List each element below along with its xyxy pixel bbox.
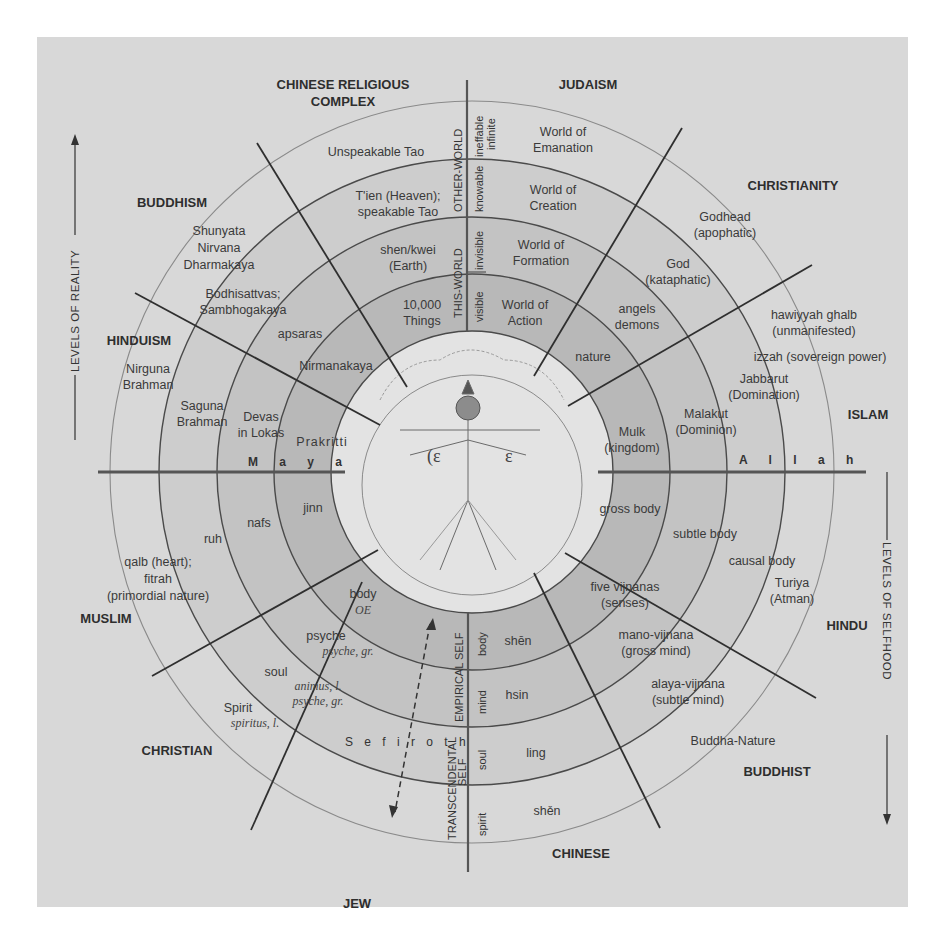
svg-text:(Dominion): (Dominion)	[675, 423, 736, 437]
svg-text:(apophatic): (apophatic)	[694, 226, 757, 240]
heading-buddhism: BUDDHISM	[137, 195, 207, 210]
svg-text:demons: demons	[615, 318, 659, 332]
heading-islam: ISLAM	[848, 407, 888, 422]
heading-christian: CHRISTIAN	[142, 743, 213, 758]
integral-levels-diagram: (ɛ ɛ LEVELS OF REALITY LEVELS OF	[0, 0, 949, 944]
svg-text:(ɛ: (ɛ	[427, 446, 441, 467]
infinite-label: infinite	[485, 118, 497, 150]
heading-jew: JEW	[343, 896, 372, 911]
heading-muslim: MUSLIM	[80, 611, 131, 626]
svg-text:Nirvana: Nirvana	[197, 241, 240, 255]
svg-text:spiritus, l.: spiritus, l.	[231, 716, 279, 730]
svg-text:(Domination): (Domination)	[728, 388, 800, 402]
svg-text:psyche: psyche	[306, 629, 346, 643]
svg-text:Nirmanakaya: Nirmanakaya	[299, 359, 373, 373]
self-soul-label: soul	[476, 750, 488, 770]
heading-buddhist: BUDDHIST	[743, 764, 810, 779]
svg-text:mano-vijnana: mano-vijnana	[618, 628, 693, 642]
svg-text:T'ien (Heaven);: T'ien (Heaven);	[355, 189, 440, 203]
svg-text:in Lokas: in Lokas	[238, 426, 285, 440]
svg-text:ling: ling	[526, 746, 546, 760]
svg-text:Godhead: Godhead	[699, 210, 750, 224]
svg-text:nature: nature	[575, 350, 610, 364]
knowable-label: knowable	[473, 166, 485, 212]
svg-text:(gross mind): (gross mind)	[621, 644, 690, 658]
svg-text:hsin: hsin	[506, 688, 529, 702]
svg-text:psyche, gr.: psyche, gr.	[292, 694, 344, 708]
self-mind-label: mind	[476, 690, 488, 714]
svg-text:five vijnanas: five vijnanas	[591, 580, 660, 594]
svg-text:psyche, gr.: psyche, gr.	[322, 644, 374, 658]
svg-text:causal body: causal body	[729, 554, 796, 568]
invisible-label: invisible	[473, 231, 485, 270]
svg-text:World of: World of	[502, 298, 549, 312]
svg-text:Action: Action	[508, 314, 543, 328]
svg-text:(kingdom): (kingdom)	[604, 441, 660, 455]
svg-text:shen/kwei: shen/kwei	[380, 243, 436, 257]
svg-text:Spirit: Spirit	[224, 701, 253, 715]
svg-text:Creation: Creation	[529, 199, 576, 213]
svg-text:10,000: 10,000	[403, 298, 441, 312]
svg-text:animus, l.: animus, l.	[294, 679, 341, 693]
svg-text:hawiyyah ghalb: hawiyyah ghalb	[771, 308, 857, 322]
ineffable-label: ineffable	[473, 116, 485, 157]
svg-text:(Atman): (Atman)	[770, 592, 814, 606]
levels-of-selfhood-label: LEVELS OF SELFHOOD	[881, 542, 893, 680]
svg-text:Saguna: Saguna	[180, 399, 223, 413]
allah-label: A l l a h	[739, 453, 862, 467]
svg-text:(kataphatic): (kataphatic)	[645, 273, 710, 287]
visible-label: visible	[473, 291, 485, 322]
levels-of-reality-label: LEVELS OF REALITY	[69, 250, 81, 372]
self-spirit-label: spirit	[476, 813, 488, 836]
svg-text:Turiya: Turiya	[775, 576, 809, 590]
svg-text:angels: angels	[619, 302, 656, 316]
heading-judaism: JUDAISM	[559, 77, 618, 92]
svg-text:Jabbarut: Jabbarut	[740, 372, 789, 386]
svg-text:izzah (sovereign power): izzah (sovereign power)	[754, 350, 887, 364]
svg-text:qalb (heart);: qalb (heart);	[124, 555, 191, 569]
svg-text:Formation: Formation	[513, 254, 569, 268]
svg-text:(primordial nature): (primordial nature)	[107, 589, 209, 603]
heading-hinduism: HINDUISM	[107, 333, 171, 348]
svg-text:Emanation: Emanation	[533, 141, 593, 155]
svg-text:Things: Things	[403, 314, 441, 328]
svg-text:(subtle mind): (subtle mind)	[652, 693, 724, 707]
self-body-label: body	[476, 632, 488, 656]
svg-text:subtle body: subtle body	[673, 527, 738, 541]
svg-text:alaya-vijnana: alaya-vijnana	[651, 677, 725, 691]
svg-text:Buddha-Nature: Buddha-Nature	[691, 734, 776, 748]
svg-text:OE: OE	[355, 603, 372, 617]
svg-text:ɛ: ɛ	[505, 446, 513, 466]
svg-text:body: body	[349, 587, 377, 601]
svg-text:fitrah: fitrah	[144, 572, 172, 586]
heading-christianity: CHRISTIANITY	[748, 178, 839, 193]
svg-text:soul: soul	[265, 665, 288, 679]
svg-text:apsaras: apsaras	[278, 327, 322, 341]
svg-text:World of: World of	[540, 125, 587, 139]
svg-text:Bodhisattvas;: Bodhisattvas;	[205, 287, 280, 301]
svg-text:shēn: shēn	[504, 634, 531, 648]
svg-text:World of: World of	[518, 238, 565, 252]
svg-text:(Earth): (Earth)	[389, 259, 427, 273]
svg-text:jinn: jinn	[302, 501, 323, 515]
svg-text:God: God	[666, 257, 690, 271]
transcendental-self-label: TRANSCENDENTAL	[446, 737, 458, 840]
heading-chinese: CHINESE	[552, 846, 610, 861]
svg-text:nafs: nafs	[247, 516, 271, 530]
heading-hindu: HINDU	[826, 618, 867, 633]
maya-label: M a y a	[248, 455, 351, 469]
svg-text:Devas: Devas	[243, 410, 278, 424]
svg-text:Prakritti: Prakritti	[296, 435, 347, 449]
heading-chinese-religious: CHINESE RELIGIOUS	[277, 77, 410, 92]
svg-text:World of: World of	[530, 183, 577, 197]
this-world-label: THIS-WORLD	[452, 248, 464, 318]
svg-text:Dharmakaya: Dharmakaya	[184, 258, 255, 272]
svg-text:shěn: shěn	[533, 804, 560, 818]
svg-text:Unspeakable Tao: Unspeakable Tao	[328, 145, 424, 159]
svg-text:Sambhogakaya: Sambhogakaya	[200, 303, 287, 317]
svg-text:(unmanifested): (unmanifested)	[772, 324, 855, 338]
svg-text:Mulk: Mulk	[619, 425, 646, 439]
svg-text:(senses): (senses)	[601, 596, 649, 610]
svg-text:ruh: ruh	[204, 532, 222, 546]
empirical-self-label: EMPIRICAL SELF	[453, 632, 465, 722]
